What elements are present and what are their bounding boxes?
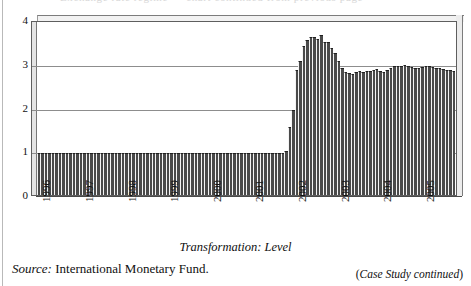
x-axis-line: [36, 196, 462, 197]
plot-bevel-right: [456, 15, 463, 196]
x-axis-tick-label: 2003: [340, 180, 351, 202]
x-axis-tick-label: 1999: [169, 180, 180, 202]
y-axis-tick-label: 1: [14, 146, 28, 157]
x-axis-tick-label: 2005: [425, 180, 436, 202]
source-text: International Monetary Fund.: [55, 261, 208, 276]
x-axis-tick-label: 1996: [41, 180, 52, 202]
figure-chart: 01234 1996199719981999200020012002200320…: [0, 6, 471, 238]
x-axis-tick-label: 2000: [212, 180, 223, 202]
continued-note-text: Case Study continued: [360, 268, 460, 280]
transformation-caption: Transformation: Level: [0, 240, 471, 255]
x-axis-tick-label: 2002: [297, 180, 308, 202]
y-axis-tick-label: 4: [14, 15, 28, 26]
y-axis-tick-label: 3: [14, 59, 28, 70]
y-axis-tick-label: 0: [14, 190, 28, 201]
bar-series: [37, 22, 456, 196]
x-axis-tick-label: 1997: [84, 180, 95, 202]
case-study-continued-note: (Case Study continued): [356, 268, 463, 280]
cutoff-header-ghost-label: Exchange rate regime — chart continued f…: [60, 0, 363, 3]
plot-box-3d: [31, 15, 463, 196]
source-label: Source:: [12, 261, 52, 276]
x-axis-tick-label: 2004: [382, 180, 393, 202]
x-axis-tick-label: 2001: [254, 180, 265, 202]
paren-close: ): [459, 268, 463, 280]
y-axis-tick-label: 2: [14, 103, 28, 114]
x-axis-tick-label: 1998: [127, 180, 138, 202]
bar: [452, 71, 455, 196]
source-line: Source: International Monetary Fund.: [12, 261, 209, 277]
plot-panel: [31, 21, 457, 196]
